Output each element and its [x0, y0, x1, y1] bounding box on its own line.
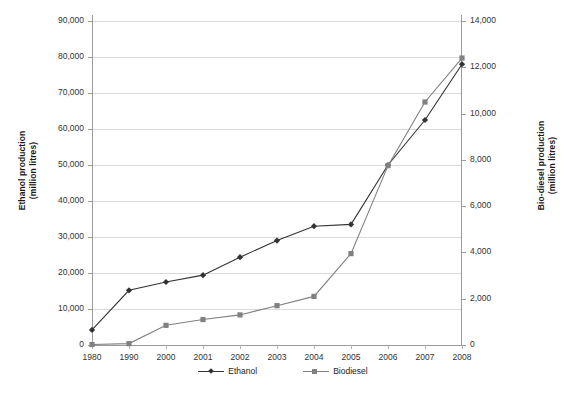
x-axis-tick — [351, 345, 352, 349]
chart-legend: EthanolBiodiesel — [0, 366, 566, 376]
legend-diamond-icon — [198, 367, 224, 376]
x-axis-tick — [462, 345, 463, 349]
data-point-square — [459, 55, 464, 60]
x-axis-tick-label: 2007 — [405, 352, 445, 362]
y-axis-right-tick — [462, 206, 466, 207]
x-axis-tick-label: 1990 — [109, 352, 149, 362]
y-axis-left-title: Ethanol production (million litres) — [17, 96, 38, 246]
y-axis-right-tick-label: 10,000 — [470, 109, 524, 118]
legend-square-icon — [303, 367, 329, 376]
y-axis-left-tick-label: 30,000 — [30, 232, 84, 241]
data-point-square — [237, 312, 242, 317]
y-axis-right-tick — [462, 160, 466, 161]
legend-label: Biodiesel — [332, 366, 368, 376]
data-point-square — [126, 341, 131, 346]
data-point-diamond — [311, 223, 317, 229]
x-axis-tick-label: 2000 — [146, 352, 186, 362]
legend-item-ethanol[interactable]: Ethanol — [198, 366, 257, 376]
data-point-diamond — [348, 221, 354, 227]
series-line — [92, 64, 462, 330]
data-point-diamond — [200, 272, 206, 278]
x-axis-tick-label: 2005 — [331, 352, 371, 362]
y-axis-right-title: Bio-diesel production (million litres) — [536, 86, 557, 246]
x-axis-tick — [425, 345, 426, 349]
data-point-diamond — [274, 238, 280, 244]
x-axis-tick — [203, 345, 204, 349]
chart-container: Ethanol production (million litres) Bio-… — [0, 0, 566, 399]
y-axis-right-tick-label: 8,000 — [470, 155, 524, 164]
series-line — [92, 58, 462, 345]
y-axis-right-tick-label: 6,000 — [470, 201, 524, 210]
series-ethanol — [89, 61, 465, 333]
y-axis-left-tick-label: 70,000 — [30, 88, 84, 97]
series-biodiesel — [89, 55, 464, 347]
data-point-square — [422, 99, 427, 104]
data-point-square — [311, 294, 316, 299]
data-point-square — [385, 163, 390, 168]
y-axis-left-tick-label: 20,000 — [30, 268, 84, 277]
x-axis-tick — [240, 345, 241, 349]
y-axis-right-tick-label: 2,000 — [470, 294, 524, 303]
legend-label: Ethanol — [227, 366, 257, 376]
y-axis-left-title-line1: Ethanol production — [17, 131, 27, 211]
x-axis-tick-label: 2001 — [183, 352, 223, 362]
data-point-diamond — [163, 279, 169, 285]
y-axis-left-tick-label: 10,000 — [30, 304, 84, 313]
data-point-diamond — [237, 254, 243, 260]
x-axis-tick — [166, 345, 167, 349]
data-point-square — [348, 251, 353, 256]
data-point-square — [200, 317, 205, 322]
data-point-square — [163, 323, 168, 328]
y-axis-right-title-line1: Bio-diesel production — [536, 121, 546, 210]
series-layer — [92, 21, 462, 345]
plot-area: 010,00020,00030,00040,00050,00060,00070,… — [92, 21, 462, 345]
x-axis-tick — [314, 345, 315, 349]
y-axis-right-tick — [462, 67, 466, 68]
x-axis-tick — [277, 345, 278, 349]
legend-item-biodiesel[interactable]: Biodiesel — [303, 366, 368, 376]
y-axis-right-tick-label: 0 — [470, 340, 524, 349]
y-axis-right-tick-label: 12,000 — [470, 62, 524, 71]
x-axis-tick-label: 2006 — [368, 352, 408, 362]
x-axis-tick-label: 2004 — [294, 352, 334, 362]
y-axis-left-tick-label: 40,000 — [30, 196, 84, 205]
y-axis-left-tick-label: 0 — [30, 340, 84, 349]
y-axis-right-tick-label: 4,000 — [470, 247, 524, 256]
y-axis-right-tick — [462, 252, 466, 253]
y-axis-left-tick-label: 80,000 — [30, 52, 84, 61]
y-axis-right-tick — [462, 21, 466, 22]
data-point-square — [274, 303, 279, 308]
y-axis-left-tick-label: 60,000 — [30, 124, 84, 133]
legend-marker — [312, 369, 317, 374]
x-axis-tick-label: 2002 — [220, 352, 260, 362]
x-axis-tick-label: 1980 — [72, 352, 112, 362]
x-axis-tick — [388, 345, 389, 349]
y-axis-right-tick — [462, 299, 466, 300]
y-axis-right-tick — [462, 114, 466, 115]
y-axis-left-tick-label: 90,000 — [30, 16, 84, 25]
data-point-square — [89, 342, 94, 347]
x-axis-tick-label: 2008 — [442, 352, 482, 362]
y-axis-left-title-line2: (million litres) — [27, 142, 37, 199]
x-axis-tick-label: 2003 — [257, 352, 297, 362]
y-axis-left-tick-label: 50,000 — [30, 160, 84, 169]
legend-marker — [208, 368, 214, 374]
y-axis-right-title-line2: (million litres) — [546, 137, 556, 194]
y-axis-right-tick-label: 14,000 — [470, 16, 524, 25]
